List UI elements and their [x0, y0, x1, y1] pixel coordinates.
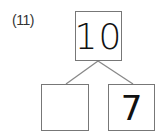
whole-number-value: 10 — [75, 16, 123, 57]
missing-part-box[interactable] — [41, 84, 89, 131]
whole-number-box: 10 — [75, 11, 122, 61]
known-part-value: 7 — [121, 88, 143, 128]
known-part-box: 7 — [108, 84, 155, 131]
